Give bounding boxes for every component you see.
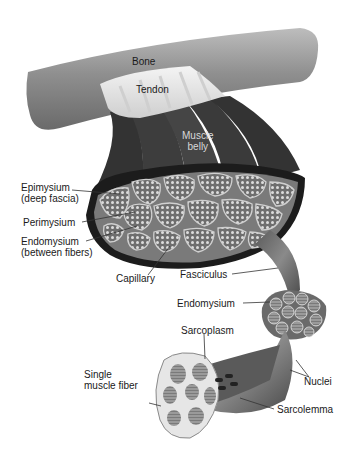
label-fasciculus: Fasciculus [180, 269, 227, 280]
label-endomysium-main-line1: Endomysium [21, 236, 79, 247]
label-endomysium-main: Endomysium (between fibers) [21, 236, 93, 258]
label-endomysium-main-line2: (between fibers) [21, 247, 93, 258]
label-capillary: Capillary [116, 273, 155, 284]
label-single-muscle-fiber: Single muscle fiber [84, 369, 138, 391]
label-perimysium: Perimysium [23, 217, 75, 228]
label-epimysium-line2: (deep fascia) [21, 193, 79, 204]
label-endomysium-fascicle: Endomysium [177, 298, 235, 309]
label-tendon: Tendon [136, 84, 169, 95]
label-muscle-belly-line2: belly [188, 141, 209, 152]
label-muscle-belly-line1: Muscle [182, 130, 214, 141]
label-bone: Bone [132, 56, 155, 67]
fascicle-cross-section [262, 290, 327, 340]
label-epimysium: Epimysium (deep fascia) [21, 182, 79, 204]
label-nuclei: Nuclei [304, 376, 332, 387]
label-sarcolemma: Sarcolemma [277, 404, 333, 415]
label-single-fiber-line1: Single [84, 369, 112, 380]
label-sarcoplasm: Sarcoplasm [181, 325, 234, 336]
label-single-fiber-line2: muscle fiber [84, 380, 138, 391]
label-muscle-belly: Muscle belly [182, 130, 214, 152]
label-epimysium-line1: Epimysium [21, 182, 70, 193]
